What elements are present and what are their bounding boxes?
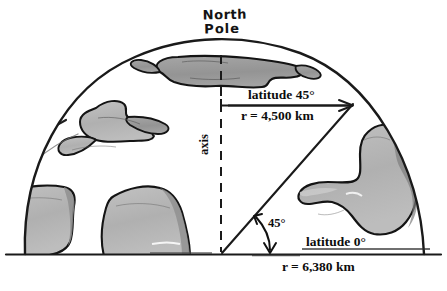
latitude-0-label: latitude 0° xyxy=(306,234,366,250)
landmass-polar xyxy=(131,56,321,88)
landmass-group xyxy=(2,56,427,256)
landmass-upper-left xyxy=(58,101,168,155)
axis-label: axis xyxy=(197,134,212,155)
north-pole-label-line2: Pole xyxy=(182,21,262,36)
landmass-right-sliver xyxy=(404,146,428,166)
radius-45-label: r = 4,500 km xyxy=(241,108,314,124)
angle-45-label: 45° xyxy=(268,216,286,231)
latitude-45-label: latitude 45° xyxy=(248,87,315,103)
landmass-bottom-left xyxy=(2,186,74,256)
landmass-bottom-center xyxy=(102,186,190,256)
diagram-canvas xyxy=(0,0,447,291)
earth-cross-section-figure: North Pole axis latitude 45° r = 4,500 k… xyxy=(0,0,447,291)
landmass-right xyxy=(298,124,417,235)
radius-45-line xyxy=(222,104,353,253)
north-pole-label: North Pole xyxy=(188,7,263,36)
radius-0-label: r = 6,380 km xyxy=(282,259,355,275)
